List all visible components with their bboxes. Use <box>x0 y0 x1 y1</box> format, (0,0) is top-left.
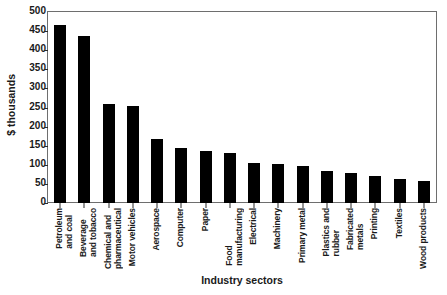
bar <box>200 151 212 203</box>
bar-chart: $ thousands 5004504003503002502001501005… <box>0 0 447 295</box>
x-axis-label: Aerospace <box>152 208 176 274</box>
x-axis-label: Motor vehicles <box>128 208 152 274</box>
x-axis-label-text: Plastics and rubber <box>322 208 341 256</box>
x-axis-label-text: Motor vehicles <box>128 208 138 266</box>
bar <box>321 171 333 203</box>
x-axis-label-text: Paper <box>201 208 211 231</box>
bar <box>248 163 260 203</box>
bar-slot <box>169 12 193 203</box>
y-axis-title: $ thousands <box>0 0 22 210</box>
y-axis-tick-100: 100 <box>20 159 46 169</box>
bar <box>175 148 187 203</box>
x-axis-title: Industry sectors <box>47 274 437 286</box>
x-axis-label-text: Beverage and tobacco <box>79 208 98 257</box>
x-axis-label-text: Computer <box>176 208 186 247</box>
bar-slot <box>145 12 169 203</box>
bar <box>272 164 284 203</box>
bar <box>345 173 357 203</box>
y-axis-tick-500: 500 <box>20 6 46 16</box>
bar <box>78 36 90 203</box>
bar-slot <box>242 12 266 203</box>
x-axis-label-text: Chemical and pharmaceutical <box>104 208 123 269</box>
bar <box>297 166 309 203</box>
bar-slot <box>315 12 339 203</box>
bar-slot <box>194 12 218 203</box>
bar-slot <box>388 12 412 203</box>
bar <box>127 106 139 203</box>
x-axis-label: Textiles <box>395 208 419 274</box>
y-axis-tick-0: 0 <box>20 197 46 207</box>
x-axis-label: Electrical <box>249 208 273 274</box>
y-axis-tick-400: 400 <box>20 44 46 54</box>
x-axis-label: Fabricated metals <box>346 208 370 274</box>
x-axis-label-text: Food manufacturing <box>225 208 244 266</box>
bar <box>224 153 236 203</box>
x-axis-label: Machinery <box>273 208 297 274</box>
bar-slot <box>363 12 387 203</box>
y-axis-tick-50: 50 <box>20 178 46 188</box>
x-axis-label-text: Printing <box>370 208 380 239</box>
bar <box>54 25 66 203</box>
x-axis-label-text: Primary metal <box>298 208 308 263</box>
bar-slot <box>266 12 290 203</box>
x-axis-label: Wood products <box>419 208 443 274</box>
x-axis-label: Food manufacturing <box>225 208 249 274</box>
x-axis-label-text: Aerospace <box>152 208 162 251</box>
y-axis-tick-200: 200 <box>20 121 46 131</box>
bar <box>151 139 163 203</box>
bars-group <box>48 12 436 203</box>
bar-slot <box>291 12 315 203</box>
bar-slot <box>412 12 436 203</box>
x-axis-label: Printing <box>370 208 394 274</box>
y-axis-tick-300: 300 <box>20 82 46 92</box>
y-axis-tick-150: 150 <box>20 140 46 150</box>
x-axis-label-text: Fabricated metals <box>346 208 365 250</box>
x-axis-label: Beverage and tobacco <box>79 208 103 274</box>
x-axis-label: Plastics and rubber <box>322 208 346 274</box>
x-axis-label: Petroleum and coal <box>55 208 79 274</box>
bar-slot <box>97 12 121 203</box>
x-axis-label-text: Textiles <box>395 208 405 238</box>
x-axis-label-text: Wood products <box>419 208 429 269</box>
bar-slot <box>339 12 363 203</box>
x-axis-label-text: Machinery <box>273 208 283 249</box>
y-axis-tick-250: 250 <box>20 102 46 112</box>
bar-slot <box>72 12 96 203</box>
x-axis-label: Chemical and pharmaceutical <box>104 208 128 274</box>
bar-slot <box>48 12 72 203</box>
x-axis-label: Paper <box>201 208 225 274</box>
x-axis-label: Computer <box>176 208 200 274</box>
bar-slot <box>121 12 145 203</box>
bar-slot <box>218 12 242 203</box>
bar <box>369 176 381 204</box>
bar <box>103 104 115 203</box>
x-axis-label-text: Petroleum and coal <box>55 208 74 249</box>
y-axis-tick-labels: 500450400350300250200150100500 <box>20 11 46 203</box>
x-axis-label-text: Electrical <box>249 208 259 245</box>
x-axis-category-labels: Petroleum and coalBeverage and tobaccoCh… <box>48 208 436 274</box>
bar <box>394 179 406 203</box>
x-axis-label: Primary metal <box>298 208 322 274</box>
bar <box>418 181 430 203</box>
y-axis-title-text: $ thousands <box>5 74 17 136</box>
y-axis-tick-450: 450 <box>20 25 46 35</box>
y-axis-tick-350: 350 <box>20 63 46 73</box>
